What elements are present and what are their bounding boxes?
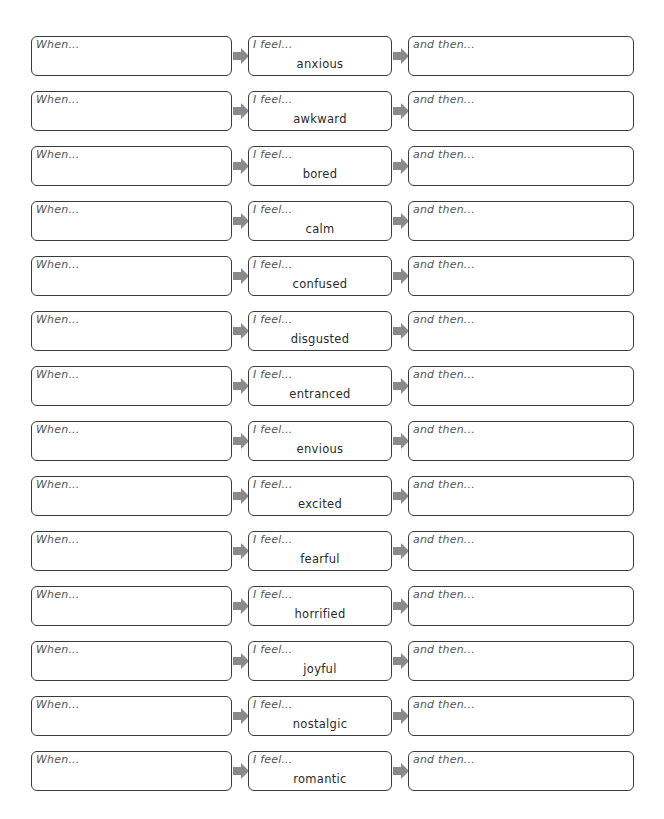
arrow-right-icon [393, 48, 409, 64]
arrow-right-icon [233, 323, 249, 339]
emotion-word: joyful [249, 662, 391, 676]
when-box[interactable]: When... [31, 201, 232, 241]
when-label: When... [36, 258, 79, 271]
then-label: and then... [413, 368, 475, 381]
feel-box[interactable]: I feel... disgusted [248, 311, 392, 351]
then-label: and then... [413, 203, 475, 216]
when-box[interactable]: When... [31, 531, 232, 571]
feel-box[interactable]: I feel... bored [248, 146, 392, 186]
when-label: When... [36, 203, 79, 216]
when-box[interactable]: When... [31, 476, 232, 516]
feel-box[interactable]: I feel... entranced [248, 366, 392, 406]
emotion-word: awkward [249, 112, 391, 126]
emotion-word: confused [249, 277, 391, 291]
when-box[interactable]: When... [31, 311, 232, 351]
feel-box[interactable]: I feel... anxious [248, 36, 392, 76]
when-label: When... [36, 478, 79, 491]
when-box[interactable]: When... [31, 91, 232, 131]
then-box[interactable]: and then... [408, 91, 634, 131]
then-box[interactable]: and then... [408, 531, 634, 571]
then-label: and then... [413, 478, 475, 491]
arrow-right-icon [233, 378, 249, 394]
arrow-right-icon [233, 433, 249, 449]
then-label: and then... [413, 313, 475, 326]
then-label: and then... [413, 698, 475, 711]
feel-box[interactable]: I feel... joyful [248, 641, 392, 681]
feel-box[interactable]: I feel... awkward [248, 91, 392, 131]
worksheet-row-envious: When... I feel... envious and then... [0, 421, 664, 461]
emotion-word: horrified [249, 607, 391, 621]
then-box[interactable]: and then... [408, 146, 634, 186]
when-label: When... [36, 38, 79, 51]
feel-box[interactable]: I feel... fearful [248, 531, 392, 571]
arrow-right-icon [393, 598, 409, 614]
when-box[interactable]: When... [31, 146, 232, 186]
feel-box[interactable]: I feel... calm [248, 201, 392, 241]
feel-box[interactable]: I feel... horrified [248, 586, 392, 626]
emotion-word: bored [249, 167, 391, 181]
when-label: When... [36, 148, 79, 161]
then-box[interactable]: and then... [408, 641, 634, 681]
feel-box[interactable]: I feel... romantic [248, 751, 392, 791]
worksheet-row-romantic: When... I feel... romantic and then... [0, 751, 664, 791]
arrow-right-icon [393, 103, 409, 119]
arrow-right-icon [233, 268, 249, 284]
then-box[interactable]: and then... [408, 36, 634, 76]
when-box[interactable]: When... [31, 751, 232, 791]
worksheet-row-entranced: When... I feel... entranced and then... [0, 366, 664, 406]
feel-label: I feel... [253, 753, 293, 766]
when-label: When... [36, 313, 79, 326]
arrow-right-icon [233, 213, 249, 229]
feel-box[interactable]: I feel... confused [248, 256, 392, 296]
arrow-right-icon [233, 103, 249, 119]
then-box[interactable]: and then... [408, 201, 634, 241]
feel-label: I feel... [253, 478, 293, 491]
feel-label: I feel... [253, 698, 293, 711]
worksheet-row-fearful: When... I feel... fearful and then... [0, 531, 664, 571]
then-box[interactable]: and then... [408, 586, 634, 626]
arrow-right-icon [393, 653, 409, 669]
then-label: and then... [413, 93, 475, 106]
when-box[interactable]: When... [31, 641, 232, 681]
when-box[interactable]: When... [31, 366, 232, 406]
then-label: and then... [413, 148, 475, 161]
emotion-word: romantic [249, 772, 391, 786]
arrow-right-icon [233, 543, 249, 559]
then-box[interactable]: and then... [408, 311, 634, 351]
worksheet-row-horrified: When... I feel... horrified and then... [0, 586, 664, 626]
then-box[interactable]: and then... [408, 751, 634, 791]
when-label: When... [36, 698, 79, 711]
when-box[interactable]: When... [31, 586, 232, 626]
emotion-word: fearful [249, 552, 391, 566]
feel-box[interactable]: I feel... envious [248, 421, 392, 461]
worksheet-row-excited: When... I feel... excited and then... [0, 476, 664, 516]
arrow-right-icon [233, 598, 249, 614]
then-box[interactable]: and then... [408, 696, 634, 736]
worksheet-row-calm: When... I feel... calm and then... [0, 201, 664, 241]
when-label: When... [36, 533, 79, 546]
when-box[interactable]: When... [31, 36, 232, 76]
emotion-word: nostalgic [249, 717, 391, 731]
feel-box[interactable]: I feel... nostalgic [248, 696, 392, 736]
arrow-right-icon [393, 433, 409, 449]
when-label: When... [36, 368, 79, 381]
worksheet-row-joyful: When... I feel... joyful and then... [0, 641, 664, 681]
feel-label: I feel... [253, 533, 293, 546]
emotion-word: excited [249, 497, 391, 511]
arrow-right-icon [393, 213, 409, 229]
then-box[interactable]: and then... [408, 421, 634, 461]
arrow-right-icon [393, 378, 409, 394]
when-label: When... [36, 93, 79, 106]
then-label: and then... [413, 643, 475, 656]
then-label: and then... [413, 423, 475, 436]
feel-label: I feel... [253, 313, 293, 326]
then-box[interactable]: and then... [408, 476, 634, 516]
arrow-right-icon [393, 543, 409, 559]
when-box[interactable]: When... [31, 256, 232, 296]
then-box[interactable]: and then... [408, 256, 634, 296]
when-box[interactable]: When... [31, 421, 232, 461]
when-box[interactable]: When... [31, 696, 232, 736]
then-box[interactable]: and then... [408, 366, 634, 406]
emotion-word: disgusted [249, 332, 391, 346]
feel-box[interactable]: I feel... excited [248, 476, 392, 516]
